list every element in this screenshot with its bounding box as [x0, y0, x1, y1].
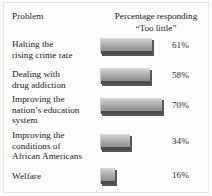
- chart-row: Halting therising crime rate61%: [0, 38, 212, 68]
- row-label-line: drug addiction: [12, 80, 98, 91]
- chart-header: Problem Percentage responding “Too littl…: [0, 11, 212, 37]
- row-label-line: conditions of: [12, 141, 98, 152]
- bar: [100, 168, 115, 184]
- row-label-line: Improving the: [12, 94, 98, 105]
- bar-track: [100, 98, 162, 114]
- bar-track: [100, 68, 150, 84]
- chart-rows: Halting therising crime rate61%Dealing w…: [0, 38, 212, 196]
- bar-value-label: 58%: [172, 70, 206, 81]
- bar-track: [100, 168, 115, 184]
- row-label-line: Welfare: [12, 171, 98, 182]
- column-header-percentage: Percentage responding “Too little”: [100, 11, 212, 34]
- bar-track: [100, 134, 130, 150]
- chart-row: Improving theconditions ofAfrican Americ…: [0, 134, 212, 168]
- row-label-line: Improving the: [12, 130, 98, 141]
- chart-row: Welfare16%: [0, 168, 212, 196]
- bar: [100, 68, 150, 84]
- row-label-line: rising crime rate: [12, 50, 98, 61]
- row-label-line: system: [12, 115, 98, 126]
- bar: [100, 98, 162, 114]
- row-label: Dealing withdrug addiction: [12, 69, 98, 90]
- row-label-line: Dealing with: [12, 69, 98, 80]
- bar-chart-figure: Problem Percentage responding “Too littl…: [0, 0, 212, 196]
- chart-row: Improving thenation’s educationsystem70%: [0, 98, 212, 134]
- row-label: Improving thenation’s educationsystem: [12, 94, 98, 126]
- bar: [100, 38, 152, 54]
- bar-value-label: 61%: [172, 40, 206, 51]
- bar-track: [100, 38, 152, 54]
- row-label: Improving theconditions ofAfrican Americ…: [12, 130, 98, 162]
- bar: [100, 134, 130, 150]
- column-header-percentage-line1: Percentage responding: [115, 11, 197, 21]
- row-label-line: African Americans: [12, 151, 98, 162]
- row-label-line: Halting the: [12, 39, 98, 50]
- bar-value-label: 34%: [172, 136, 206, 147]
- column-header-percentage-line2: “Too little”: [100, 23, 212, 35]
- row-label: Welfare: [12, 171, 98, 182]
- row-label: Halting therising crime rate: [12, 39, 98, 60]
- column-header-problem: Problem: [12, 11, 43, 22]
- bar-value-label: 16%: [172, 170, 206, 181]
- row-label-line: nation’s education: [12, 105, 98, 116]
- bar-value-label: 70%: [172, 100, 206, 111]
